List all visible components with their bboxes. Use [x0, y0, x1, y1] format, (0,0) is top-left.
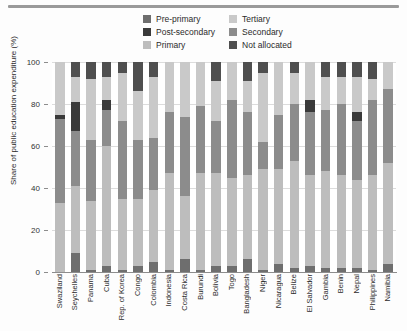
bar-column[interactable] — [321, 62, 330, 272]
legend-item[interactable]: Tertiary — [229, 14, 292, 24]
bar-segment[interactable] — [102, 100, 111, 111]
legend-item[interactable]: Pre-primary — [143, 14, 215, 24]
bar-segment[interactable] — [165, 112, 174, 173]
bar-segment[interactable] — [368, 175, 377, 270]
bar-segment[interactable] — [149, 77, 158, 138]
bar-segment[interactable] — [55, 119, 64, 203]
bar-segment[interactable] — [211, 62, 220, 81]
bar-segment[interactable] — [290, 104, 299, 161]
bar-segment[interactable] — [368, 62, 377, 79]
bar-segment[interactable] — [71, 62, 80, 77]
bar-segment[interactable] — [71, 253, 80, 272]
bar-column[interactable] — [305, 62, 314, 272]
bar-column[interactable] — [274, 62, 283, 272]
bar-segment[interactable] — [305, 175, 314, 265]
bar-segment[interactable] — [133, 62, 142, 91]
bar-segment[interactable] — [149, 190, 158, 261]
bar-segment[interactable] — [321, 77, 330, 111]
bar-segment[interactable] — [118, 121, 127, 199]
bar-column[interactable] — [149, 62, 158, 272]
bar-segment[interactable] — [102, 266, 111, 272]
bar-segment[interactable] — [86, 140, 95, 201]
bar-segment[interactable] — [180, 62, 189, 117]
legend-item[interactable]: Not allocated — [229, 40, 292, 50]
bar-segment[interactable] — [86, 201, 95, 270]
bar-segment[interactable] — [196, 106, 205, 173]
bar-segment[interactable] — [290, 161, 299, 268]
bar-segment[interactable] — [258, 62, 267, 73]
bar-segment[interactable] — [71, 186, 80, 253]
bar-segment[interactable] — [227, 178, 236, 266]
bar-column[interactable] — [368, 62, 377, 272]
bar-segment[interactable] — [274, 62, 283, 115]
bar-segment[interactable] — [102, 146, 111, 266]
bar-segment[interactable] — [86, 79, 95, 140]
bar-segment[interactable] — [196, 173, 205, 270]
bar-segment[interactable] — [243, 81, 252, 113]
bar-segment[interactable] — [71, 131, 80, 186]
bar-segment[interactable] — [290, 268, 299, 272]
bar-segment[interactable] — [305, 62, 314, 100]
bar-segment[interactable] — [211, 81, 220, 121]
bar-segment[interactable] — [368, 79, 377, 100]
bar-segment[interactable] — [383, 163, 392, 264]
bar-segment[interactable] — [243, 62, 252, 81]
bar-segment[interactable] — [321, 171, 330, 268]
bar-segment[interactable] — [149, 62, 158, 77]
bar-column[interactable] — [133, 62, 142, 272]
bar-segment[interactable] — [227, 100, 236, 178]
bar-segment[interactable] — [258, 270, 267, 272]
bar-segment[interactable] — [337, 62, 346, 77]
bar-segment[interactable] — [55, 62, 64, 115]
bar-column[interactable] — [165, 62, 174, 272]
bar-column[interactable] — [118, 62, 127, 272]
bar-segment[interactable] — [337, 175, 346, 267]
bar-segment[interactable] — [102, 77, 111, 100]
bar-segment[interactable] — [243, 259, 252, 272]
bar-segment[interactable] — [368, 270, 377, 272]
bar-segment[interactable] — [180, 259, 189, 272]
bar-segment[interactable] — [180, 117, 189, 197]
bar-column[interactable] — [383, 62, 392, 272]
bar-segment[interactable] — [133, 199, 142, 266]
bar-column[interactable] — [337, 62, 346, 272]
bar-column[interactable] — [227, 62, 236, 272]
bar-segment[interactable] — [165, 270, 174, 272]
bar-segment[interactable] — [71, 77, 80, 102]
bar-segment[interactable] — [211, 173, 220, 265]
bar-segment[interactable] — [352, 180, 361, 268]
bar-segment[interactable] — [71, 102, 80, 131]
bar-segment[interactable] — [118, 62, 127, 73]
bar-segment[interactable] — [321, 268, 330, 272]
bar-segment[interactable] — [118, 199, 127, 270]
bar-segment[interactable] — [149, 138, 158, 191]
bar-segment[interactable] — [352, 62, 361, 77]
legend-item[interactable]: Secondary — [229, 27, 292, 37]
bar-segment[interactable] — [180, 196, 189, 259]
bar-column[interactable] — [71, 62, 80, 272]
bar-segment[interactable] — [196, 62, 205, 106]
bar-segment[interactable] — [383, 264, 392, 272]
bar-segment[interactable] — [133, 266, 142, 272]
bar-segment[interactable] — [149, 262, 158, 273]
bar-segment[interactable] — [305, 266, 314, 272]
bar-segment[interactable] — [290, 73, 299, 105]
bar-segment[interactable] — [258, 169, 267, 270]
bar-segment[interactable] — [55, 203, 64, 272]
bar-segment[interactable] — [55, 115, 64, 119]
bar-segment[interactable] — [133, 140, 142, 199]
bar-segment[interactable] — [352, 112, 361, 120]
bar-column[interactable] — [352, 62, 361, 272]
legend-item[interactable]: Primary — [143, 40, 215, 50]
bar-column[interactable] — [258, 62, 267, 272]
bar-segment[interactable] — [290, 62, 299, 73]
bar-segment[interactable] — [211, 121, 220, 174]
bar-segment[interactable] — [118, 270, 127, 272]
bar-segment[interactable] — [86, 62, 95, 79]
bar-segment[interactable] — [227, 266, 236, 272]
bar-segment[interactable] — [321, 110, 330, 171]
bar-column[interactable] — [290, 62, 299, 272]
bar-segment[interactable] — [274, 169, 283, 264]
bar-segment[interactable] — [133, 91, 142, 139]
bar-segment[interactable] — [321, 62, 330, 77]
